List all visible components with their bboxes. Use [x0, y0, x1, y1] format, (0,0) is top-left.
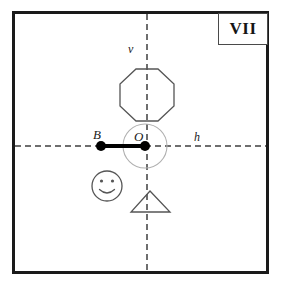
point-b-marker — [96, 141, 106, 151]
triangle-shape — [131, 191, 170, 212]
point-label-b: B — [93, 128, 101, 141]
smiley-mouth — [100, 190, 115, 194]
figure-plate-label: VII — [229, 19, 256, 39]
smiley-eye-right — [111, 179, 114, 182]
axis-label-h: h — [194, 131, 200, 143]
smiley-eye-left — [100, 179, 103, 182]
figure-plate-box: VII — [218, 13, 268, 45]
figure-canvas: v h B O VII — [0, 0, 284, 283]
smiley-face — [92, 171, 122, 201]
point-label-o: O — [134, 130, 143, 143]
smiley-outline — [92, 171, 122, 201]
axis-label-v: v — [128, 43, 133, 55]
